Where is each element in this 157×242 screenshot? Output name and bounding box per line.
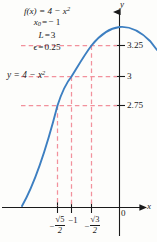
y-tick-label-325: 3.25 bbox=[127, 41, 143, 50]
x0-line: x0=− 1 bbox=[8, 17, 86, 30]
limit-diagram-figure: f(x) = 4 − x2 x0=− 1 L=3 ϵ=0.25 y = 4 − … bbox=[0, 0, 157, 242]
curve-equation-text: y = 4 − x bbox=[7, 70, 42, 80]
y-tick-label-3: 3 bbox=[127, 72, 132, 81]
curve-equation-exponent: 2 bbox=[42, 69, 45, 76]
vertical-dashed-lines bbox=[58, 46, 92, 207]
curve-equation-label: y = 4 − x2 bbox=[7, 70, 45, 80]
fraction-denominator: 2 bbox=[90, 226, 101, 235]
function-exponent: 2 bbox=[67, 5, 70, 12]
x0-value: − 1 bbox=[48, 17, 60, 27]
L-equals: = bbox=[44, 30, 51, 40]
given-conditions-block: f(x) = 4 − x2 x0=− 1 L=3 ϵ=0.25 bbox=[8, 3, 86, 53]
function-definition-line: f(x) = 4 − x2 bbox=[8, 3, 86, 17]
L-line: L=3 bbox=[8, 30, 86, 42]
epsilon-line: ϵ=0.25 bbox=[8, 42, 86, 54]
y-tick-label-275: 2.75 bbox=[127, 101, 143, 110]
y-axis-label: y bbox=[120, 0, 124, 9]
fraction-numerator: √3 bbox=[90, 216, 101, 226]
x-tick-label-neg-sqrt3-over-2: −√32 bbox=[77, 216, 108, 236]
L-value: 3 bbox=[51, 30, 56, 40]
function-definition-text: f(x) = 4 − x bbox=[24, 6, 67, 16]
L-symbol: L bbox=[39, 30, 44, 40]
fraction: √32 bbox=[90, 216, 101, 236]
x-axis-label: x bbox=[147, 202, 151, 211]
epsilon-value: 0.25 bbox=[44, 42, 60, 52]
fraction-denominator: 2 bbox=[55, 226, 66, 235]
origin-label: 0 bbox=[121, 209, 126, 218]
parabola-curve bbox=[22, 27, 157, 206]
